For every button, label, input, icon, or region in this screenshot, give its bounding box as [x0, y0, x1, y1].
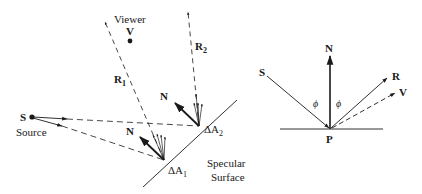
area-2-label: ΔA2 — [204, 123, 223, 138]
normal-2-label: N — [160, 90, 168, 102]
viewer-point — [128, 39, 133, 44]
normal-arrow-2 — [175, 103, 199, 126]
source-label-right: S — [259, 66, 265, 78]
incident-angle-label: ϕ — [313, 98, 318, 109]
left-diagram: Viewer V S Source R1 R2 N N ΔA1 ΔA2 Spec… — [16, 12, 246, 187]
source-ray-arrow-1 — [33, 117, 67, 119]
incident-ray-1 — [62, 126, 164, 160]
viewer-label: Viewer — [114, 13, 146, 25]
surface-label-line1: Specular — [207, 157, 246, 169]
reflected-angle-label: ϕ — [336, 98, 341, 109]
source-point-label: S — [20, 111, 26, 123]
specular-reflection-figure: Viewer V S Source R1 R2 N N ΔA1 ΔA2 Spec… — [0, 0, 422, 194]
normal-arrow-1 — [140, 137, 164, 160]
reflected-ray-1-label: R1 — [114, 73, 126, 88]
viewer-vector — [332, 93, 395, 128]
normal-label: N — [325, 42, 333, 54]
reflection-label: R — [392, 70, 401, 82]
area-1-label: ΔA1 — [168, 164, 187, 179]
reflected-ray-2-label: R2 — [195, 40, 207, 55]
normal-1-label: N — [126, 125, 134, 137]
viewer-point-label: V — [126, 25, 134, 37]
right-diagram: N S R V P ϕ ϕ — [259, 42, 407, 145]
source-label: Source — [16, 126, 47, 138]
source-ray-arrow-2 — [33, 118, 62, 126]
surface-label-line2: Surface — [211, 171, 245, 183]
point-label: P — [326, 133, 333, 145]
viewer-label-right: V — [399, 86, 407, 98]
incident-vector — [267, 76, 329, 128]
